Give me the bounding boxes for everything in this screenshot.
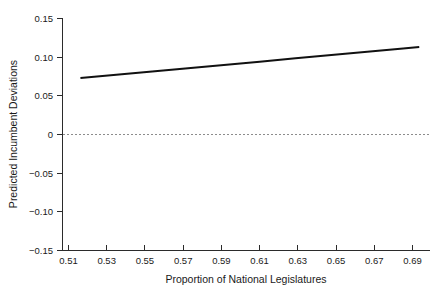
x-tick-label: 0.65: [327, 255, 346, 266]
y-tick-label: −0.15: [29, 245, 53, 256]
x-tick-label: 0.53: [97, 255, 116, 266]
y-tick-label: 0.15: [35, 13, 54, 24]
x-axis-title: Proportion of National Legislatures: [165, 273, 326, 285]
x-tick-label: 0.69: [403, 255, 422, 266]
x-tick-label: 0.57: [174, 255, 193, 266]
chart-background: [0, 0, 437, 292]
x-tick-label: 0.59: [212, 255, 231, 266]
y-axis-title: Predicted Incumbent Deviations: [7, 60, 19, 208]
x-tick-label: 0.63: [289, 255, 308, 266]
y-tick-label: −0.10: [29, 206, 53, 217]
chart-figure: 0.15 0.10 0.05 0 −0.05 −0.10 −0.15 0.51 …: [0, 0, 437, 292]
chart-svg: 0.15 0.10 0.05 0 −0.05 −0.10 −0.15 0.51 …: [0, 0, 437, 292]
y-tick-label: 0.10: [35, 52, 54, 63]
x-tick-label: 0.51: [59, 255, 78, 266]
x-tick-label: 0.67: [365, 255, 384, 266]
y-tick-label: −0.05: [29, 168, 53, 179]
y-tick-label: 0.05: [35, 90, 54, 101]
x-tick-label: 0.61: [250, 255, 269, 266]
x-tick-label: 0.55: [136, 255, 155, 266]
y-tick-label: 0: [48, 129, 53, 140]
